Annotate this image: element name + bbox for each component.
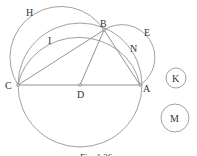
label-A: A (143, 83, 151, 94)
segment-CB (18, 30, 104, 85)
label-B: B (100, 18, 107, 29)
label-N: N (130, 43, 137, 54)
point-C (17, 84, 20, 87)
label-K: K (172, 73, 180, 84)
label-H: H (26, 7, 33, 18)
label-C: C (5, 80, 12, 91)
label-I: I (48, 35, 51, 46)
point-B (103, 29, 106, 32)
label-E: E (144, 27, 150, 38)
arc-I (18, 37, 140, 85)
figure-caption: Fig. 1.36 (80, 152, 113, 156)
point-A (139, 84, 142, 87)
segment-BA (104, 30, 140, 85)
label-D: D (77, 89, 84, 100)
geometry-figure: A B C D H I E N K M Fig. 1.36 (0, 0, 197, 156)
label-M: M (170, 113, 179, 124)
arc-H (10, 6, 104, 85)
point-D (79, 84, 82, 87)
